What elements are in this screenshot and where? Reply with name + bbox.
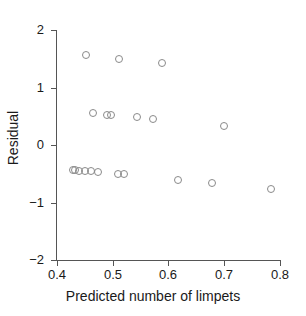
residual-scatter-plot-figure: 210−1−2 0.40.50.60.70.8 Residual Predict… [0, 0, 306, 316]
y-axis-title: Residual [5, 78, 21, 198]
data-point [174, 176, 182, 184]
x-tick-mark [57, 261, 58, 266]
y-tick-mark [51, 30, 56, 31]
x-axis-title: Predicted number of limpets [0, 288, 306, 304]
x-tick-mark [168, 261, 169, 266]
y-tick-mark [51, 145, 56, 146]
y-tick-label: −1 [18, 196, 44, 209]
data-point [115, 55, 123, 63]
data-point [94, 168, 102, 176]
x-tick-label: 0.6 [148, 268, 188, 281]
y-tick-label: 1 [18, 81, 44, 94]
y-tick-mark [51, 88, 56, 89]
x-tick-label: 0.5 [93, 268, 133, 281]
x-tick-mark [224, 261, 225, 266]
y-tick-label: −2 [18, 253, 44, 266]
y-tick-label: 0 [18, 138, 44, 151]
y-tick-mark [51, 203, 56, 204]
data-point [149, 115, 157, 123]
x-tick-label: 0.4 [37, 268, 77, 281]
data-point [267, 185, 275, 193]
y-tick-label: 2 [18, 23, 44, 36]
x-tick-label: 0.8 [260, 268, 300, 281]
y-tick-mark [51, 260, 56, 261]
data-point [208, 179, 216, 187]
plot-area [57, 30, 280, 260]
x-tick-mark [280, 261, 281, 266]
x-axis-line [57, 260, 281, 261]
x-tick-mark [113, 261, 114, 266]
data-point [89, 109, 97, 117]
data-point [158, 59, 166, 67]
x-tick-label: 0.7 [204, 268, 244, 281]
